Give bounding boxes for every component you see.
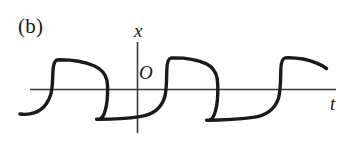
x-axis-label: x — [134, 20, 142, 42]
panel-label: (b) — [18, 14, 43, 39]
waveform-plot — [0, 0, 358, 145]
t-axis-label: t — [330, 93, 335, 115]
figure-panel-b: (b) x O t — [0, 0, 358, 145]
origin-label: O — [139, 62, 153, 84]
